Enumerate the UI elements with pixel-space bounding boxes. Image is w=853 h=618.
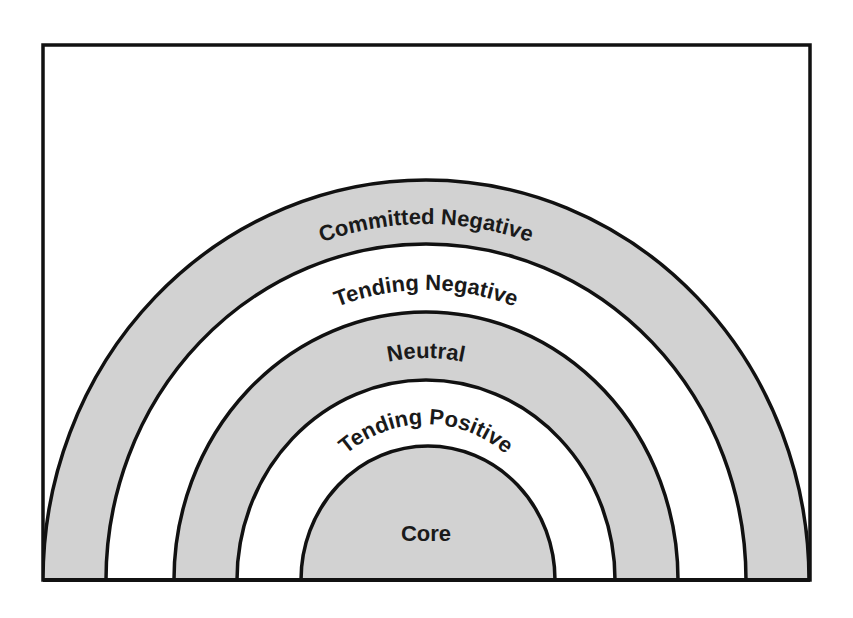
concentric-rings-diagram: Committed Negative Tending Negative Neut… xyxy=(0,0,853,618)
label-neutral: Neutral xyxy=(385,338,468,367)
label-core: Core xyxy=(401,521,451,546)
